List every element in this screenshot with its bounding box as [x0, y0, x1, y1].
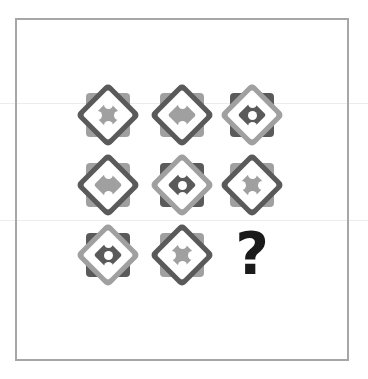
- pip-dot-icon: [237, 181, 246, 190]
- pip-layer: [164, 167, 200, 203]
- die-tile-4-pips[interactable]: [76, 83, 140, 147]
- die-tile-2-pips[interactable]: [76, 153, 140, 217]
- pip-dot-icon: [248, 191, 257, 200]
- pip-dot-icon: [248, 99, 257, 108]
- pip-layer: [164, 97, 200, 133]
- pip-dot-icon: [104, 262, 113, 271]
- pip-dot-icon: [258, 181, 267, 190]
- pip-dot-icon: [104, 100, 113, 109]
- pip-dot-icon: [104, 121, 113, 130]
- pip-layer: [164, 237, 200, 273]
- die-tile-3-pips[interactable]: [76, 223, 140, 287]
- pip-dot-icon: [104, 191, 113, 200]
- question-mark-icon: ?: [220, 225, 284, 283]
- pip-dot-icon: [167, 251, 176, 260]
- die-tile-4-pips[interactable]: [150, 223, 214, 287]
- pip-dot-icon: [104, 170, 113, 179]
- pip-dot-icon: [104, 251, 113, 260]
- die-tile-2-pips[interactable]: [150, 83, 214, 147]
- pip-dot-icon: [178, 169, 187, 178]
- pip-dot-icon: [178, 192, 187, 201]
- pip-dot-icon: [178, 100, 187, 109]
- pip-layer: [90, 167, 126, 203]
- pip-dot-icon: [248, 111, 257, 120]
- missing-cell[interactable]: ?: [220, 223, 284, 287]
- pip-dot-icon: [248, 122, 257, 131]
- pip-dot-icon: [114, 111, 123, 120]
- pip-dot-icon: [178, 121, 187, 130]
- die-tile-3-pips[interactable]: [220, 83, 284, 147]
- pip-dot-icon: [93, 111, 102, 120]
- pip-dot-icon: [188, 251, 197, 260]
- die-tile-3-pips[interactable]: [150, 153, 214, 217]
- die-tile-4-pips[interactable]: [220, 153, 284, 217]
- pip-dot-icon: [178, 240, 187, 249]
- pip-dot-icon: [248, 170, 257, 179]
- pip-layer: [234, 97, 270, 133]
- pip-dot-icon: [104, 239, 113, 248]
- pip-layer: [234, 167, 270, 203]
- pip-layer: [90, 97, 126, 133]
- pip-layer: [90, 237, 126, 273]
- pip-dot-icon: [178, 261, 187, 270]
- pip-dot-icon: [178, 181, 187, 190]
